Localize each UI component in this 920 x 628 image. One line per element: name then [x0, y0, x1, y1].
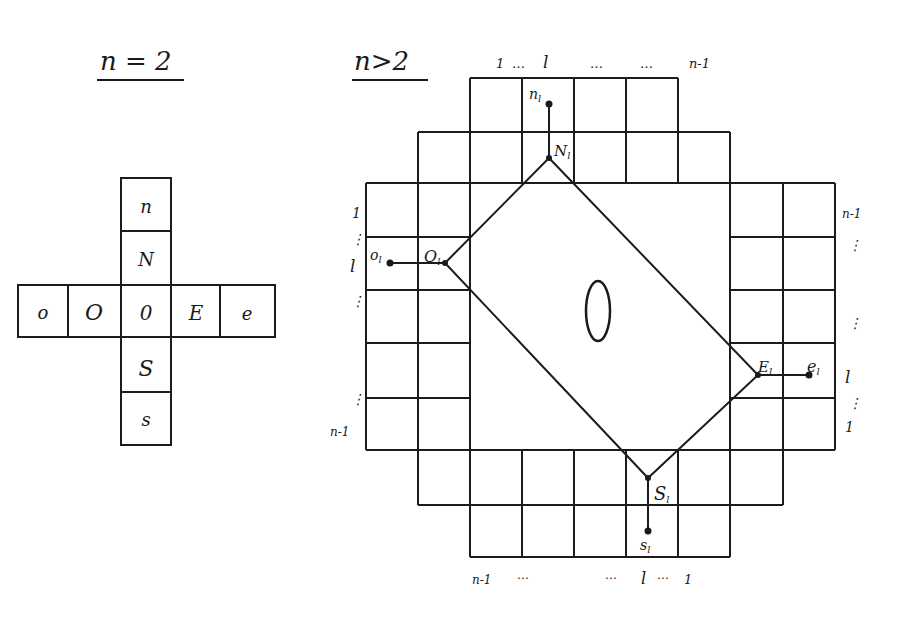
top-label-dots1: …: [512, 56, 525, 71]
right-label-1: 1: [845, 419, 854, 435]
label-n: n: [140, 196, 152, 217]
label-o: o: [38, 302, 49, 323]
left-axis-labels: 1 ⋮ l ⋮ ⋮ n-1: [330, 205, 365, 439]
bottom-axis-labels: n-1 ⋯ ⋯ l ⋯ 1: [472, 569, 692, 588]
bottom-label-l: l: [641, 569, 646, 588]
right-panel: n>2: [330, 46, 862, 588]
node-label-s: sl: [640, 537, 650, 555]
left-label-dots3: ⋮: [351, 391, 365, 407]
node-o-dot: [387, 260, 394, 267]
node-n-dot: [546, 101, 553, 108]
label-E: E: [188, 301, 204, 325]
top-label-dots2: …: [590, 56, 603, 71]
left-label-1: 1: [352, 205, 361, 221]
left-title: n = 2: [100, 46, 172, 76]
top-label-n1: n-1: [689, 56, 710, 71]
right-label-n1: n-1: [842, 207, 861, 221]
node-label-e: el: [807, 357, 820, 377]
node-s-dot: [645, 528, 652, 535]
label-N: N: [137, 249, 155, 270]
node-label-S: Sl: [654, 483, 670, 505]
diamond-shape: [390, 104, 809, 531]
left-label-dots2: ⋮: [351, 293, 365, 309]
label-e: e: [242, 303, 253, 324]
bottom-label-1: 1: [684, 572, 692, 587]
top-label-l: l: [543, 52, 548, 72]
node-label-n: nl: [529, 86, 541, 104]
center-zero-label: [586, 281, 610, 341]
node-N-dot: [546, 155, 552, 161]
left-label-l: l: [350, 256, 355, 276]
left-label-dots1: ⋮: [351, 231, 365, 247]
right-axis-labels: n-1 ⋮ ⋮ l ⋮ 1: [842, 207, 862, 435]
ring-grid: [366, 78, 835, 557]
left-panel: n = 2 n N o O 0 E e S s: [18, 46, 275, 445]
right-label-dots2: ⋮: [848, 315, 862, 331]
node-label-N: Nl: [553, 142, 570, 161]
right-title: n>2: [354, 46, 409, 76]
node-S-dot: [645, 475, 651, 481]
label-S: S: [138, 356, 153, 381]
top-axis-labels: 1 … l … … n-1: [496, 52, 710, 72]
diamond-outline: [445, 158, 758, 478]
label-center: 0: [140, 301, 153, 325]
diagram-canvas: n = 2 n N o O 0 E e S s n>2: [0, 0, 920, 628]
node-O-dot: [442, 260, 448, 266]
label-O: O: [85, 300, 103, 325]
bottom-label-dots1: ⋯: [516, 571, 528, 585]
left-label-n1: n-1: [330, 425, 349, 439]
bottom-label-dots3: ⋯: [656, 571, 668, 585]
bottom-label-n1: n-1: [472, 573, 491, 587]
node-label-E: El: [757, 358, 772, 377]
right-label-dots1: ⋮: [848, 237, 862, 253]
right-label-l: l: [845, 367, 850, 387]
top-label-1: 1: [496, 56, 504, 71]
right-label-dots3: ⋮: [848, 395, 862, 411]
node-label-o: ol: [370, 247, 382, 265]
node-label-O: Ol: [424, 247, 440, 267]
top-label-dots3: …: [640, 56, 653, 71]
bottom-label-dots2: ⋯: [604, 571, 616, 585]
label-s: s: [141, 409, 150, 430]
